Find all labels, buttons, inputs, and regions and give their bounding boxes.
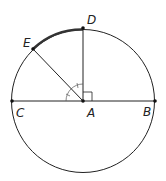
label-D: D — [87, 13, 96, 27]
arc-ED — [33, 29, 83, 49]
point-E — [31, 47, 35, 51]
point-B — [153, 99, 157, 103]
label-C: C — [16, 106, 25, 120]
label-B: B — [143, 105, 151, 119]
circle-diagram: A B C D E — [0, 0, 166, 181]
segment-AE — [33, 49, 83, 101]
right-angle-mark — [83, 92, 92, 101]
point-D — [81, 26, 85, 30]
tick-mark-EAD — [77, 83, 78, 88]
point-A — [81, 99, 85, 103]
label-E: E — [23, 36, 31, 50]
point-C — [10, 99, 14, 103]
label-A: A — [86, 106, 95, 120]
